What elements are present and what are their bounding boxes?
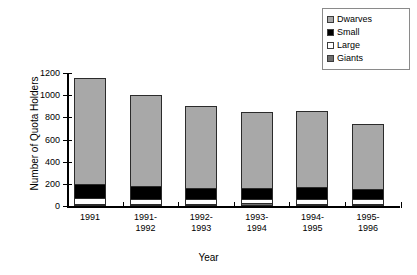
y-tick-mark xyxy=(63,162,72,163)
stacked-bar-chart: Dwarves Small Large Giants Number of Quo… xyxy=(0,0,417,275)
x-category-label-line: 1995 xyxy=(280,223,344,234)
bar-segment-dwarves[interactable] xyxy=(130,95,162,186)
bar-segment-large[interactable] xyxy=(352,199,384,204)
x-category-label-line: 1992 xyxy=(114,223,178,234)
bar-segment-dwarves[interactable] xyxy=(241,112,273,189)
bar-segment-large[interactable] xyxy=(185,199,217,204)
bar-segment-dwarves[interactable] xyxy=(185,106,217,188)
y-tick-label: 200 xyxy=(24,180,60,189)
bar-segment-small[interactable] xyxy=(296,187,328,199)
y-tick-label: 800 xyxy=(24,113,60,122)
bar-segment-large[interactable] xyxy=(74,198,106,204)
x-category-label-line: 1991 xyxy=(58,212,122,223)
bar-segment-giants[interactable] xyxy=(130,204,162,206)
bar-segment-dwarves[interactable] xyxy=(352,124,384,189)
bar-stack[interactable] xyxy=(352,0,384,206)
bar-stack[interactable] xyxy=(185,0,217,206)
x-category-label: 1991-1992 xyxy=(114,212,178,234)
x-tick-mark xyxy=(123,202,124,208)
x-category-label-line: 1992- xyxy=(169,212,233,223)
y-axis-line xyxy=(67,73,69,208)
y-tick-label: 0 xyxy=(24,202,60,211)
y-tick-label: 1000 xyxy=(24,91,60,100)
bar-segment-small[interactable] xyxy=(185,188,217,199)
y-tick-mark xyxy=(63,117,72,118)
bar-segment-large[interactable] xyxy=(130,199,162,204)
bar-segment-giants[interactable] xyxy=(352,204,384,206)
y-tick-mark xyxy=(63,73,72,74)
bar-segment-small[interactable] xyxy=(241,188,273,199)
bar-segment-large[interactable] xyxy=(241,199,273,203)
x-tick-mark xyxy=(234,202,235,208)
x-tick-mark xyxy=(289,202,290,208)
x-category-label: 1992-1993 xyxy=(169,212,233,234)
bar-stack[interactable] xyxy=(241,0,273,206)
plot-area: 020040060080010001200 19911991-19921992-… xyxy=(0,0,417,275)
bar-segment-giants[interactable] xyxy=(185,204,217,206)
x-category-label: 1994-1995 xyxy=(280,212,344,234)
bar-segment-small[interactable] xyxy=(352,189,384,199)
bar-stack[interactable] xyxy=(296,0,328,206)
x-category-label-line: 1993 xyxy=(169,223,233,234)
x-tick-mark xyxy=(178,202,179,208)
x-category-label-line: 1994- xyxy=(280,212,344,223)
x-category-label: 1991 xyxy=(58,212,122,223)
bar-segment-small[interactable] xyxy=(74,184,106,198)
bar-segment-giants[interactable] xyxy=(296,204,328,206)
bar-segment-large[interactable] xyxy=(296,199,328,204)
x-category-label-line: 1993- xyxy=(225,212,289,223)
y-tick-label: 1200 xyxy=(24,69,60,78)
y-tick-mark xyxy=(63,140,72,141)
x-tick-mark xyxy=(345,202,346,208)
y-tick-label: 600 xyxy=(24,136,60,145)
bar-stack[interactable] xyxy=(130,0,162,206)
x-category-label-line: 1991- xyxy=(114,212,178,223)
bar-segment-giants[interactable] xyxy=(241,203,273,206)
y-tick-mark xyxy=(63,184,72,185)
x-tick-mark xyxy=(67,202,68,208)
y-tick-mark xyxy=(63,95,72,96)
bar-stack[interactable] xyxy=(74,0,106,206)
x-category-label-line: 1994 xyxy=(225,223,289,234)
x-category-label-line: 1996 xyxy=(336,223,400,234)
y-tick-label: 400 xyxy=(24,158,60,167)
bar-segment-dwarves[interactable] xyxy=(74,78,106,184)
bar-segment-giants[interactable] xyxy=(74,204,106,206)
x-category-label: 1995-1996 xyxy=(336,212,400,234)
bar-segment-small[interactable] xyxy=(130,186,162,198)
x-tick-mark xyxy=(401,202,402,208)
x-category-label: 1993-1994 xyxy=(225,212,289,234)
x-category-label-line: 1995- xyxy=(336,212,400,223)
bar-segment-dwarves[interactable] xyxy=(296,111,328,187)
